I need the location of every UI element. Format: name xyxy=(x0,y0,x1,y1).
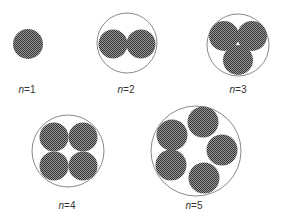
packed-circle xyxy=(207,135,238,166)
label-value: 5 xyxy=(197,200,203,211)
panel-n1 xyxy=(13,29,43,59)
packed-circle xyxy=(13,29,43,59)
panel-n2 xyxy=(97,13,157,73)
packed-circle xyxy=(40,123,69,152)
panel-label-n4: n=4 xyxy=(59,200,76,211)
panel-label-n1: n=1 xyxy=(19,84,36,95)
packed-circle xyxy=(69,152,98,181)
label-value: 2 xyxy=(129,84,135,95)
label-value: 3 xyxy=(241,84,247,95)
panel-label-n2: n=2 xyxy=(118,84,135,95)
panel-n5 xyxy=(151,106,241,196)
packed-circle xyxy=(69,123,98,152)
label-value: 4 xyxy=(70,200,76,211)
packed-circle xyxy=(40,152,69,181)
packed-circle xyxy=(189,163,220,194)
packed-circle xyxy=(127,30,156,59)
packed-circle xyxy=(99,30,128,59)
packed-circle xyxy=(188,107,219,138)
packed-circle xyxy=(156,150,187,181)
packed-circle xyxy=(157,120,188,151)
panel-n4 xyxy=(32,115,104,187)
packed-circle xyxy=(223,45,253,75)
panel-label-n3: n=3 xyxy=(230,84,247,95)
panel-n3 xyxy=(207,14,269,76)
panel-label-n5: n=5 xyxy=(186,200,203,211)
label-value: 1 xyxy=(30,84,36,95)
circle-packing-diagram xyxy=(0,0,284,221)
